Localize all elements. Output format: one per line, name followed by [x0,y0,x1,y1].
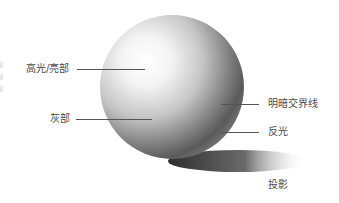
leader-line-reflected-light [221,132,259,133]
sphere-shape [100,15,244,159]
label-reflected-light: 反光 [268,126,288,138]
cropped-text-fragment [0,62,3,68]
leader-line-halftone [76,119,152,120]
label-halftone: 灰部 [50,113,70,125]
sphere-shading-diagram: 高光/亮部 灰部 明暗交界线 反光 投影 [0,0,339,203]
label-cast-shadow: 投影 [268,179,288,191]
leader-line-highlight [77,69,145,70]
label-terminator: 明暗交界线 [268,98,318,110]
cropped-text-fragment [0,74,3,80]
cropped-text-fragment [0,86,3,92]
label-highlight: 高光/亮部 [26,63,69,75]
leader-line-terminator [221,104,259,105]
